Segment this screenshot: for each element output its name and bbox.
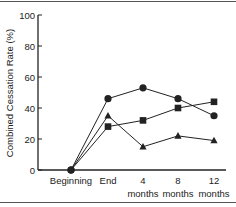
circle-marker <box>104 95 111 102</box>
square-marker <box>211 99 218 106</box>
square-marker <box>140 117 147 124</box>
circle-marker <box>210 112 217 119</box>
x-tick-label: Beginning <box>50 175 92 186</box>
x-tick-label: months <box>198 188 229 199</box>
origin-marker <box>68 167 75 174</box>
triangle-marker <box>104 112 111 119</box>
x-tick-label: months <box>127 188 158 199</box>
x-tick-label: 12 <box>209 175 220 186</box>
data-lines <box>71 88 214 170</box>
line-chart: Combined Cessation Rate (%) 020406080100… <box>0 0 236 207</box>
series-line-triangle <box>71 116 214 170</box>
x-tick-label: months <box>162 188 193 199</box>
square-marker <box>175 105 182 112</box>
series-line-circle <box>71 88 214 170</box>
y-tick-label: 60 <box>24 72 35 83</box>
chart-frame: Combined Cessation Rate (%) 020406080100… <box>0 0 236 207</box>
y-axis-label: Combined Cessation Rate (%) <box>4 29 15 157</box>
y-tick-label: 100 <box>19 10 35 21</box>
data-markers <box>68 84 218 173</box>
series-line-square <box>71 102 214 170</box>
y-tick-label: 0 <box>30 165 35 176</box>
triangle-marker <box>174 132 181 139</box>
x-tick-label: 8 <box>175 175 180 186</box>
y-tick-label: 20 <box>24 134 35 145</box>
circle-marker <box>139 84 146 91</box>
x-tick-label: 4 <box>140 175 145 186</box>
y-tick-label: 80 <box>24 41 35 52</box>
square-marker <box>105 123 112 130</box>
circle-marker <box>174 95 181 102</box>
x-tick-label: End <box>100 175 117 186</box>
y-tick-label: 40 <box>24 103 35 114</box>
